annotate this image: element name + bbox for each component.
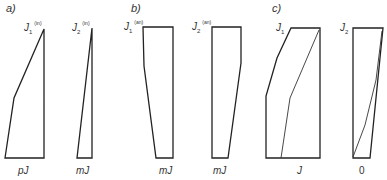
panel-label-c: c): [272, 2, 282, 14]
panel-label-a: a): [6, 2, 16, 14]
diagram-b-j1: J1(an) mJ: [123, 19, 173, 176]
shape-a-j2: [77, 28, 92, 158]
panel-label-b: b): [131, 2, 141, 14]
shape-a-j1: [5, 29, 44, 158]
shape-b-j1: [143, 27, 173, 158]
symbol-b-j1: J1(an): [123, 19, 144, 34]
diagram-c-j2: J2 0: [339, 22, 383, 176]
bottom-label-b-j2: mJ: [213, 165, 227, 176]
diagram-a-j2: J2(in) mJ: [71, 20, 92, 176]
shape-b-j2: [212, 27, 241, 158]
bottom-label-a-j2: mJ: [76, 165, 90, 176]
bottom-label-b-j1: mJ: [159, 165, 173, 176]
diagram-c-j1: J1 J: [266, 22, 320, 176]
symbol-a-j2: J2(in): [71, 20, 90, 35]
symbol-c-j2: J2: [339, 22, 349, 35]
diagram-canvas: a) J1(in) pJ J2(in) mJ b) J1(an) mJ J2(a…: [0, 0, 387, 180]
diagram-b-j2: J2(an) mJ: [191, 19, 241, 176]
symbol-a-j1: J1(in): [23, 20, 42, 35]
inner-curve-c-j2: [353, 31, 382, 157]
bottom-label-a-j1: pJ: [17, 165, 30, 176]
bottom-label-c-j1: J: [296, 165, 303, 176]
diagram-a-j1: J1(in) pJ: [5, 20, 44, 176]
symbol-b-j2: J2(an): [191, 19, 212, 34]
shape-c-j2: [353, 28, 383, 158]
bottom-label-c-j2: 0: [359, 165, 365, 176]
inner-curve-c-j1: [281, 30, 319, 158]
symbol-c-j1: J1: [275, 22, 285, 35]
